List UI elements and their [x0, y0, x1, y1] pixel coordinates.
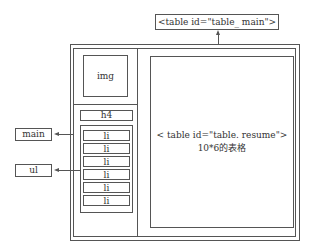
table-main-connector [218, 34, 219, 44]
table-resume-box: < table id="table. resume"> 10*6的表格 [150, 56, 294, 228]
ul-connector [58, 170, 80, 171]
list-item: li [83, 143, 130, 154]
table-resume-size: 10*6的表格 [157, 142, 288, 155]
ul-label: ul [15, 164, 52, 177]
table-resume-description: < table id="table. resume"> 10*6的表格 [157, 129, 288, 155]
arrow-left-icon [54, 132, 59, 136]
table-main-label: <table id="table_ main"> [155, 14, 279, 30]
main-label: main [15, 128, 52, 141]
main-connector [58, 134, 73, 135]
list-item: li [83, 169, 130, 180]
h4-heading: h4 [80, 110, 133, 121]
list-item: li [83, 156, 130, 167]
arrow-up-icon [216, 30, 220, 35]
arrow-left-icon [54, 168, 59, 172]
list-item: li [83, 195, 130, 206]
column-divider [137, 48, 138, 237]
img-cell-divider [73, 104, 138, 105]
list-item: li [83, 182, 130, 193]
table-resume-id: < table id="table. resume"> [157, 129, 288, 142]
img-placeholder: img [83, 55, 128, 97]
list-item: li [83, 130, 130, 141]
